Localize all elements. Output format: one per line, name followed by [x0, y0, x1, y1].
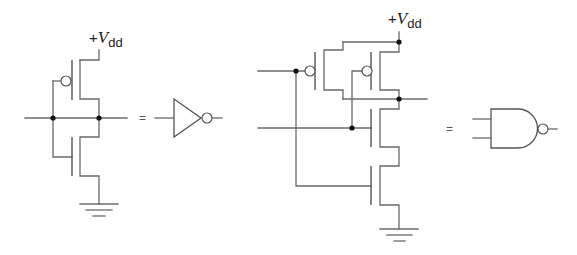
pmos-a-inversion-bubble-icon	[305, 66, 315, 76]
plus-sign: +	[89, 29, 98, 46]
equals-sign: =	[446, 122, 453, 136]
inverter-output-bubble-icon	[202, 113, 212, 123]
nand-gate-symbol: =	[446, 109, 557, 148]
output-junction-dot	[396, 96, 401, 101]
pmos-inversion-bubble-icon	[61, 76, 71, 86]
input-junction-dot	[50, 115, 55, 120]
vdd-label-nand: +Vdd	[388, 9, 422, 31]
plus-sign: +	[388, 10, 397, 27]
vdd-junction-dot	[396, 39, 401, 44]
dd-subscript: dd	[108, 35, 122, 50]
cmos-nand-circuit: +Vdd	[258, 9, 427, 241]
vdd-label-inverter: +Vdd	[89, 28, 123, 50]
nmos-gate-wire	[53, 81, 72, 157]
pmos-b-channel-wire	[380, 42, 399, 99]
pmos-a-channel-wire	[324, 42, 343, 99]
nand-body-icon	[491, 109, 538, 148]
cmos-inverter-circuit: +Vdd	[25, 28, 127, 216]
input-b-junction-dot	[349, 125, 354, 130]
ground-icon	[80, 204, 118, 216]
vdd-to-pmos-source-wire	[80, 50, 99, 60]
input-a-junction-dot	[293, 68, 298, 73]
output-junction-dot	[96, 115, 101, 120]
nand-wires	[258, 32, 427, 229]
pmos-nmos-channel-wire	[80, 60, 99, 204]
inverter-wires	[25, 50, 127, 204]
pmos-b-inversion-bubble-icon	[362, 66, 372, 76]
ground-icon	[380, 229, 418, 241]
inverter-gate-symbol: =	[139, 99, 222, 137]
cmos-logic-diagram: +Vdd = +Vdd	[0, 0, 577, 255]
inverter-triangle-icon	[174, 99, 201, 137]
nmos-series-stack-wire	[380, 99, 399, 229]
nand-output-bubble-icon	[538, 124, 548, 134]
equals-sign: =	[139, 111, 146, 125]
dd-subscript: dd	[407, 16, 421, 31]
